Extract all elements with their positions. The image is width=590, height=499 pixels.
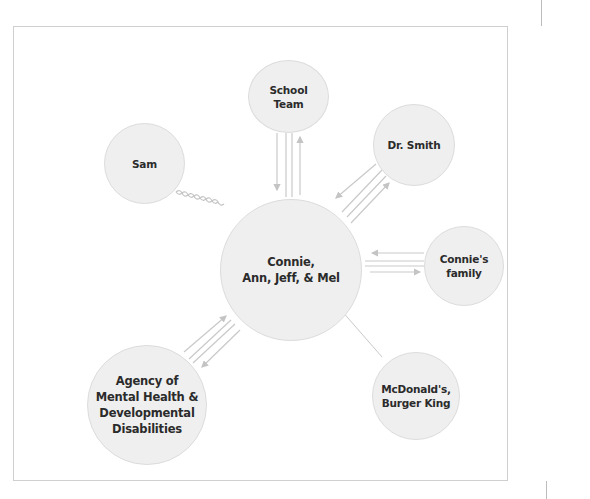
node-center-family: Connie, Ann, Jeff, & Mel: [220, 199, 362, 341]
node-dr-smith-label: Dr. Smith: [388, 138, 441, 152]
edge-agency: [184, 316, 240, 367]
node-fastfood-label: McDonald's, Burger King: [381, 382, 451, 410]
node-sam: Sam: [104, 123, 185, 204]
node-connies-family-label: Connie's family: [440, 252, 488, 280]
edge-school-team: [277, 133, 300, 197]
node-fastfood: McDonald's, Burger King: [372, 352, 460, 440]
node-center-label: Connie, Ann, Jeff, & Mel: [242, 254, 340, 286]
node-school-team: School Team: [248, 60, 329, 133]
node-sam-label: Sam: [132, 157, 157, 171]
edge-connies-family: [365, 253, 424, 272]
node-agency: Agency of Mental Health & Developmental …: [87, 345, 207, 465]
node-school-team-label: School Team: [269, 83, 307, 111]
node-agency-label: Agency of Mental Health & Developmental …: [96, 373, 198, 437]
node-dr-smith: Dr. Smith: [373, 104, 455, 186]
edge-dr-smith: [336, 164, 389, 223]
node-connies-family: Connie's family: [424, 226, 504, 306]
